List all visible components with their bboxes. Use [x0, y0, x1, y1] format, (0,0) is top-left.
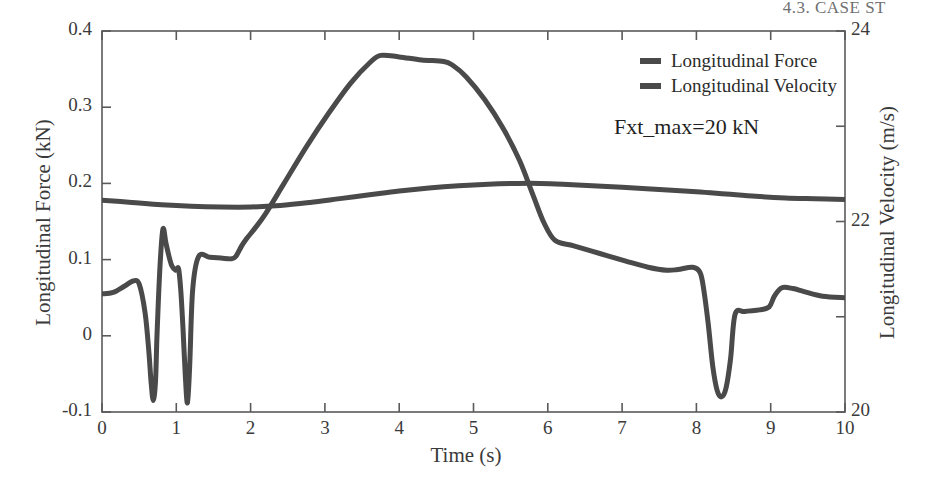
x-tick-label-2: 2 [226, 417, 276, 439]
series-layer [102, 55, 845, 403]
x-tick-label-6: 6 [523, 417, 573, 439]
x-tick-label-7: 7 [597, 417, 647, 439]
y-tick-label-right-22: 22 [851, 209, 895, 231]
series-line-longitudinal-force [102, 55, 845, 403]
chart-annotation-fxt-max: Fxt_max=20 kN [614, 114, 759, 140]
legend-label-force: Longitudinal Force [671, 50, 817, 72]
chart-legend: Longitudinal Force Longitudinal Velocity [640, 48, 837, 98]
y-tick-label-left-0p1: 0.1 [34, 247, 92, 269]
legend-label-velocity: Longitudinal Velocity [671, 75, 837, 97]
x-axis-title: Time (s) [0, 443, 932, 468]
y-tick-label-left-0p3: 0.3 [34, 94, 92, 116]
y-tick-label-right-24: 24 [851, 18, 895, 40]
y-tick-label-left-0p2: 0.2 [34, 170, 92, 192]
x-tick-label-5: 5 [449, 417, 499, 439]
legend-swatch-force [640, 58, 661, 64]
x-tick-label-3: 3 [300, 417, 350, 439]
x-tick-label-4: 4 [374, 417, 424, 439]
x-tick-label-1: 1 [151, 417, 201, 439]
legend-swatch-velocity [640, 83, 661, 89]
y-tick-label-left-0p4: 0.4 [34, 18, 92, 40]
x-tick-label-8: 8 [671, 417, 721, 439]
series-line-longitudinal-velocity [102, 183, 845, 207]
y-tick-label-left-neg0p1: -0.1 [34, 399, 92, 421]
y-tick-label-left-0: 0 [34, 323, 92, 345]
y-tick-label-right-20: 20 [851, 399, 895, 421]
legend-item-longitudinal-force: Longitudinal Force [640, 48, 837, 73]
legend-item-longitudinal-velocity: Longitudinal Velocity [640, 73, 837, 98]
chart-figure: Longitudinal Force (kN) Longitudinal Vel… [0, 0, 932, 481]
x-tick-label-9: 9 [746, 417, 796, 439]
